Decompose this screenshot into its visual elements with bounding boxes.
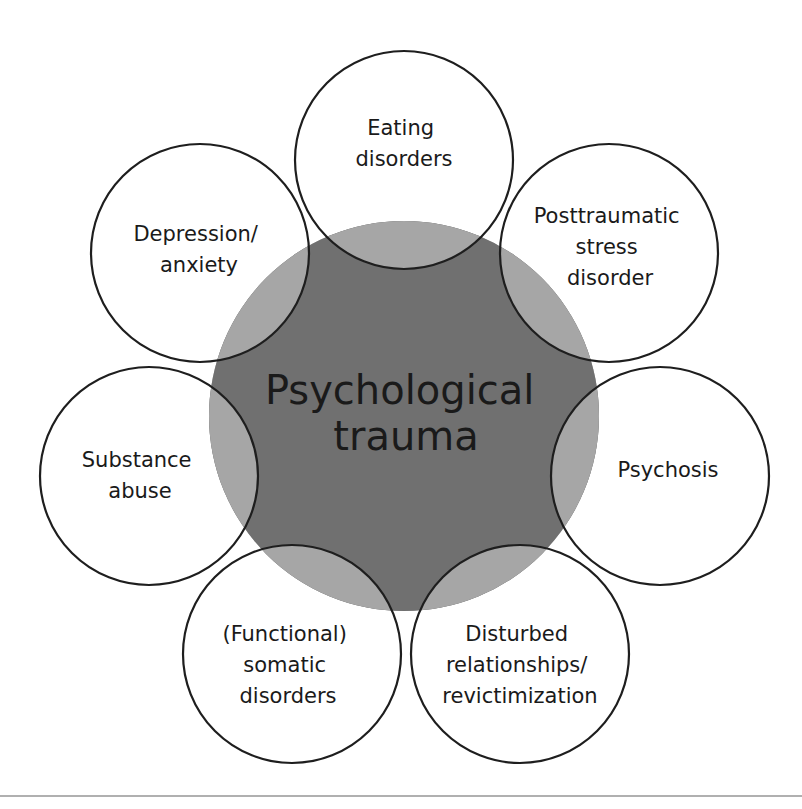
center-label-line: trauma <box>333 413 478 459</box>
psychosis-label: Psychosis <box>617 458 718 482</box>
eating-disorders-label: Eating disorders <box>355 116 452 171</box>
relationships-label: Disturbed relationships/ revictimization <box>442 622 597 708</box>
somatic-disorders-label: (Functional) somatic disorders <box>222 622 353 708</box>
ptsd-label: Posttraumatic stress disorder <box>534 204 687 290</box>
substance-abuse-label: Substance abuse <box>82 448 198 503</box>
trauma-diagram: Psychological trauma Eating disorders Po… <box>0 0 802 809</box>
depression-anxiety-label: Depression/ anxiety <box>133 222 264 277</box>
center-label-line: Psychological <box>265 367 534 413</box>
